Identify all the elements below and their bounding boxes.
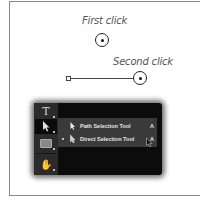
tool-column: T ✋ <box>34 103 58 175</box>
active-tool-bullet-icon <box>58 138 68 140</box>
menu-item-shortcut: A <box>147 123 157 129</box>
selection-tool-flyout-menu: Path Selection Tool A Direct Selection T… <box>58 118 157 147</box>
menu-item-label: Path Selection Tool <box>78 123 147 129</box>
second-click-target-icon <box>133 71 147 85</box>
path-segment <box>70 78 134 79</box>
menu-item-label: Direct Selection Tool <box>78 136 147 142</box>
path-selection-arrow-icon <box>68 122 78 130</box>
tools-panel: T ✋ Path Selection Tool A <box>34 103 162 175</box>
hand-icon: ✋ <box>40 159 52 170</box>
submenu-indicator-icon <box>53 116 55 118</box>
type-icon: T <box>42 105 49 118</box>
hand-tool-button[interactable]: ✋ <box>35 157 57 172</box>
submenu-indicator-icon <box>53 148 55 150</box>
type-tool-button[interactable]: T <box>35 104 57 119</box>
rectangle-tool-button[interactable] <box>35 136 57 151</box>
direct-selection-arrow-icon <box>68 135 78 143</box>
menu-item-path-selection-tool[interactable]: Path Selection Tool A <box>58 119 157 132</box>
selection-tool-button[interactable] <box>35 119 57 134</box>
arrow-pointer-icon <box>42 121 51 132</box>
submenu-indicator-icon <box>53 169 55 171</box>
rectangle-icon <box>40 139 52 148</box>
first-click-label: First click <box>82 15 127 26</box>
second-click-label: Second click <box>113 56 173 67</box>
menu-item-direct-selection-tool[interactable]: Direct Selection Tool A <box>58 132 157 145</box>
first-click-target-icon <box>95 33 109 47</box>
submenu-indicator-icon <box>53 131 55 133</box>
tool-divider <box>36 153 56 154</box>
mouse-cursor-icon <box>146 138 153 147</box>
